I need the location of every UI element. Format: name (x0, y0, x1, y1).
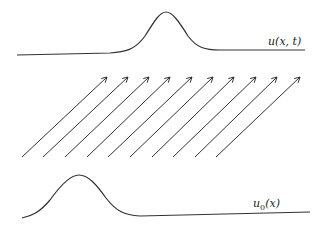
characteristic-arrow (216, 77, 300, 157)
characteristic-arrow (130, 77, 213, 157)
characteristic-arrow (152, 77, 234, 157)
characteristic-arrow (173, 77, 256, 157)
bottom-curve-label: u0(x) (253, 197, 280, 212)
characteristic-arrow (22, 77, 107, 157)
top-wave-curve (17, 12, 305, 55)
characteristic-arrow (108, 77, 192, 157)
characteristic-arrow (87, 77, 170, 157)
characteristic-arrow (65, 77, 149, 157)
characteristic-arrow (43, 77, 128, 157)
characteristic-lines (22, 77, 300, 157)
advection-diagram: u(x, t) u0(x) (0, 0, 323, 231)
top-curve-label: u(x, t) (268, 35, 301, 48)
characteristic-arrow (195, 77, 277, 157)
